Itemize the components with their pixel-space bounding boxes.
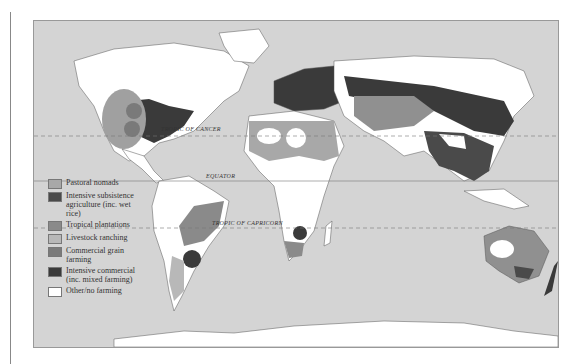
equator-label: EQUATOR [206,173,235,179]
na-grain [102,89,146,149]
legend-label: Other/no farming [66,286,136,295]
page-margin-rule [10,12,11,364]
swatch-commercial-grain [48,247,62,257]
legend: Pastoral nomads Intensive subsistence ag… [48,178,136,299]
legend-item-tropical-plantations: Tropical plantations [48,220,136,231]
legend-item-intensive-commercial: Intensive commercial (inc. mixed farming… [48,266,136,284]
swatch-intensive-commercial [48,267,62,277]
swatch-pastoral-nomads [48,179,62,189]
legend-label: Intensive subsistence agriculture (inc. … [66,191,136,218]
legend-item-intensive-subsistence: Intensive subsistence agriculture (inc. … [48,191,136,218]
legend-item-livestock-ranching: Livestock ranching [48,233,136,244]
legend-label: Tropical plantations [66,220,136,229]
tropic-of-capricorn-label: TROPIC OF CAPRICORN [212,220,283,226]
swatch-tropical-plantations [48,221,62,231]
world-map: TROPIC OF CANCER EQUATOR TROPIC OF CAPRI… [33,20,559,348]
legend-label: Intensive commercial (inc. mixed farming… [66,266,136,284]
antarctica [114,321,558,347]
legend-item-other: Other/no farming [48,286,136,297]
north-america [74,43,249,161]
tropic-of-cancer-label: TROPIC OF CANCER [161,126,221,132]
legend-label: Livestock ranching [66,233,136,242]
swatch-other [48,287,62,297]
legend-label: Pastoral nomads [66,178,136,187]
swatch-intensive-subsistence [48,192,62,202]
legend-label: Commercial grain farming [66,246,136,264]
legend-item-commercial-grain: Commercial grain farming [48,246,136,264]
swatch-livestock-ranching [48,234,62,244]
legend-item-pastoral-nomads: Pastoral nomads [48,178,136,189]
